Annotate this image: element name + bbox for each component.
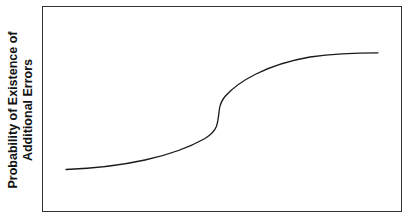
y-axis-label: Probability of Existence of Additional E… [0, 0, 42, 219]
plot-area-frame [42, 6, 402, 212]
y-axis-label-text: Probability of Existence of Additional E… [4, 10, 38, 210]
y-axis-label-line-1: Probability of Existence of [6, 31, 21, 188]
y-axis-label-line-2: Additional Errors [21, 58, 36, 160]
chart-figure: Probability of Existence of Additional E… [0, 0, 413, 219]
